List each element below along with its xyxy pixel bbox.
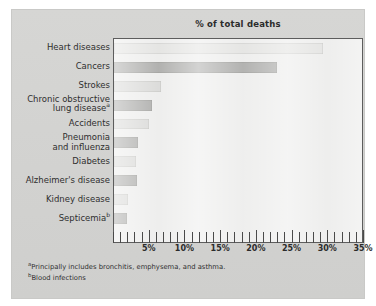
x-axis-minor-tick	[199, 232, 200, 243]
bar	[114, 62, 277, 73]
x-axis-minor-tick	[277, 232, 278, 243]
x-axis-minor-tick	[356, 232, 357, 243]
x-axis-tick-label: 20%	[246, 244, 265, 253]
x-axis-major-tick	[327, 230, 328, 243]
x-axis-tick-labels: 5%10%15%20%25%30%35%	[113, 244, 363, 256]
x-axis-minor-tick	[320, 232, 321, 243]
bar-row	[114, 133, 362, 152]
x-axis-tick-label: 15%	[211, 244, 230, 253]
footnotes: aPrincipally includes bronchitis, emphys…	[28, 262, 328, 284]
y-axis-label: Alzheimer's disease	[14, 176, 110, 186]
bar	[114, 119, 149, 130]
x-axis-minor-tick	[270, 232, 271, 243]
bar	[114, 175, 137, 186]
x-axis-minor-tick	[163, 232, 164, 243]
y-axis-label: Accidents	[14, 119, 110, 129]
x-axis-minor-tick	[127, 232, 128, 243]
x-axis-minor-tick	[120, 232, 121, 243]
bar	[114, 156, 136, 167]
x-axis-minor-tick	[170, 232, 171, 243]
x-axis-minor-tick	[156, 232, 157, 243]
x-axis-minor-tick	[213, 232, 214, 243]
x-axis-minor-tick	[142, 232, 143, 243]
x-axis-minor-tick	[263, 232, 264, 243]
chart-title: % of total deaths	[112, 19, 364, 29]
x-axis-minor-tick	[134, 232, 135, 243]
bar-row	[114, 58, 362, 77]
x-axis-minor-tick	[192, 232, 193, 243]
bar-row	[114, 190, 362, 209]
x-axis-tick-label: 25%	[282, 244, 301, 253]
bar-row	[114, 209, 362, 228]
x-axis-tick-label: 35%	[353, 244, 372, 253]
x-axis-minor-tick	[334, 232, 335, 243]
bar	[114, 81, 161, 92]
y-axis-label: Kidney disease	[14, 195, 110, 205]
bar-row	[114, 171, 362, 190]
bar	[114, 100, 152, 111]
x-axis-major-tick	[363, 230, 364, 243]
y-axis-label: Septicemiab	[14, 214, 110, 224]
bar-row	[114, 115, 362, 134]
x-axis-ticks	[113, 229, 363, 243]
x-axis-minor-tick	[249, 232, 250, 243]
x-axis-minor-tick	[242, 232, 243, 243]
bar-row	[114, 77, 362, 96]
x-axis-minor-tick	[306, 232, 307, 243]
x-axis-minor-tick	[234, 232, 235, 243]
footnote: bBlood infections	[28, 273, 328, 284]
x-axis-minor-tick	[349, 232, 350, 243]
y-axis-label: Pneumoniaand influenza	[14, 133, 110, 152]
y-axis-label: Strokes	[14, 81, 110, 91]
bar-rows	[114, 39, 362, 228]
bar	[114, 137, 138, 148]
x-axis-tick-label: 5%	[142, 244, 156, 253]
x-axis-minor-tick	[299, 232, 300, 243]
plot-area	[113, 38, 363, 243]
chart-figure: % of total deaths Heart diseasesCancersS…	[0, 0, 376, 306]
x-axis-minor-tick	[342, 232, 343, 243]
bar-row	[114, 96, 362, 115]
x-axis-tick-label: 10%	[175, 244, 194, 253]
y-axis-label: Heart diseases	[14, 43, 110, 53]
footnote: aPrincipally includes bronchitis, emphys…	[28, 262, 328, 273]
bar-row	[114, 152, 362, 171]
y-axis-label: Diabetes	[14, 157, 110, 167]
x-axis-minor-tick	[313, 232, 314, 243]
x-axis-tick-label: 30%	[318, 244, 337, 253]
bar	[114, 194, 128, 205]
x-axis-minor-tick	[177, 232, 178, 243]
x-axis-major-tick	[184, 230, 185, 243]
x-axis-minor-tick	[113, 232, 114, 243]
x-axis-major-tick	[220, 230, 221, 243]
y-axis-label: Chronic obstructivelung diseasea	[14, 95, 110, 114]
y-axis-label: Cancers	[14, 62, 110, 72]
x-axis-major-tick	[292, 230, 293, 243]
bar-row	[114, 39, 362, 58]
x-axis-major-tick	[256, 230, 257, 243]
bar	[114, 43, 323, 54]
bar	[114, 213, 127, 224]
x-axis-major-tick	[149, 230, 150, 243]
x-axis-minor-tick	[284, 232, 285, 243]
x-axis-minor-tick	[206, 232, 207, 243]
x-axis-minor-tick	[227, 232, 228, 243]
y-axis-category-labels: Heart diseasesCancersStrokesChronic obst…	[14, 38, 110, 229]
